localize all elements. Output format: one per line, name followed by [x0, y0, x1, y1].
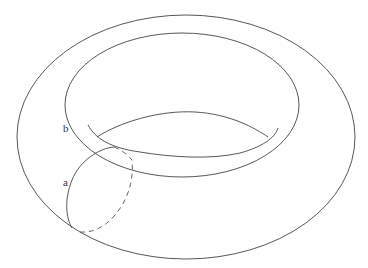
curve-a-front [67, 147, 114, 228]
torus-diagram: b a [0, 0, 368, 268]
label-a: a [63, 176, 68, 188]
outer-boundary [17, 15, 355, 259]
hole-upper-arc [97, 112, 268, 137]
inner-hole-boundary [65, 33, 299, 177]
hole-lower-rim [88, 125, 278, 157]
label-b: b [63, 122, 69, 134]
